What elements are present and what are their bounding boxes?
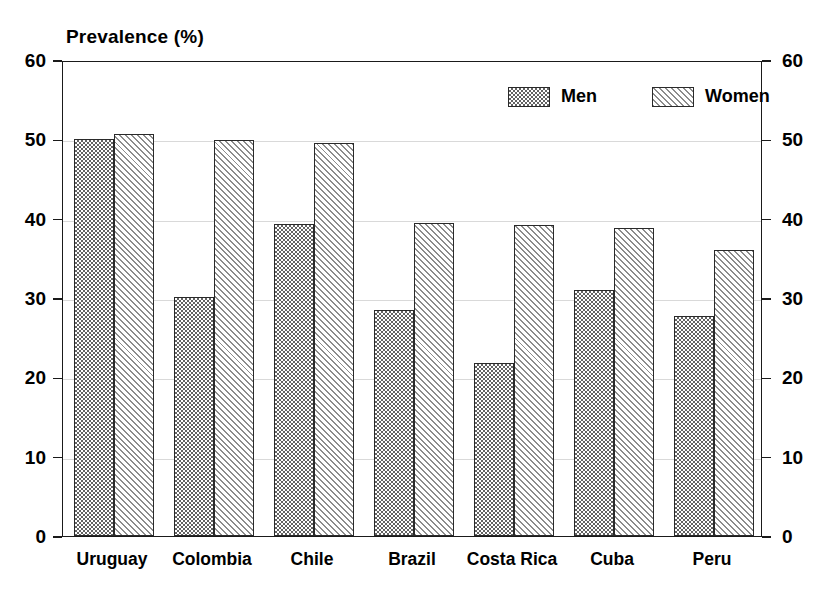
bar-men-costa-rica (474, 363, 514, 536)
bar-men-peru (674, 316, 714, 536)
y-axis-label-left-60: 60 (0, 51, 46, 70)
y-axis-label-right-30: 30 (782, 289, 803, 308)
bar-men-uruguay (74, 139, 114, 536)
y-axis-label-left-50: 50 (0, 130, 46, 149)
y-axis-label-right-40: 40 (782, 210, 803, 229)
bar-women-peru (714, 250, 754, 536)
y-axis-label-left-40: 40 (0, 210, 46, 229)
gridline-50 (63, 141, 761, 142)
x-axis-label-costa-rica: Costa Rica (462, 549, 562, 570)
x-axis-label-colombia: Colombia (162, 549, 262, 570)
y-axis-label-left-10: 10 (0, 448, 46, 467)
bar-women-brazil (414, 223, 454, 536)
bar-women-costa-rica (514, 225, 554, 536)
y-axis-label-left-30: 30 (0, 289, 46, 308)
bar-women-uruguay (114, 134, 154, 536)
y-tick-left-50 (53, 140, 62, 142)
legend-label-men: Men (561, 86, 597, 107)
legend-swatch-women (652, 87, 694, 107)
y-tick-left-60 (53, 60, 62, 62)
bar-men-colombia (174, 297, 214, 536)
legend-label-women: Women (705, 86, 770, 107)
plot-area (62, 61, 762, 537)
bar-women-colombia (214, 140, 254, 536)
y-tick-right-20 (762, 378, 771, 380)
bar-chart: Prevalence (%) 0102030405060 01020304050… (0, 0, 836, 591)
y-axis-label-right-0: 0 (782, 527, 793, 546)
y-tick-right-0 (762, 536, 771, 538)
y-tick-right-30 (762, 298, 771, 300)
bar-men-cuba (574, 290, 614, 536)
legend-item-men: Men (508, 86, 597, 107)
bar-men-chile (274, 224, 314, 536)
x-axis-label-brazil: Brazil (362, 549, 462, 570)
gridline-30 (63, 300, 761, 301)
y-axis-label-right-60: 60 (782, 51, 803, 70)
y-axis-label-right-50: 50 (782, 130, 803, 149)
y-tick-left-30 (53, 298, 62, 300)
x-axis-label-chile: Chile (262, 549, 362, 570)
y-tick-right-40 (762, 219, 771, 221)
y-tick-right-10 (762, 457, 771, 459)
x-axis-label-cuba: Cuba (562, 549, 662, 570)
y-tick-left-10 (53, 457, 62, 459)
legend-item-women: Women (652, 86, 770, 107)
bar-women-chile (314, 143, 354, 536)
y-tick-left-0 (53, 536, 62, 538)
y-tick-left-20 (53, 378, 62, 380)
bar-men-brazil (374, 310, 414, 536)
y-axis-label-right-10: 10 (782, 448, 803, 467)
y-axis-label-left-20: 20 (0, 368, 46, 387)
y-tick-left-40 (53, 219, 62, 221)
x-axis-label-peru: Peru (662, 549, 762, 570)
legend-swatch-men (508, 87, 550, 107)
chart-title: Prevalence (%) (66, 26, 204, 48)
y-axis-label-right-20: 20 (782, 368, 803, 387)
x-axis-label-uruguay: Uruguay (62, 549, 162, 570)
y-tick-right-60 (762, 60, 771, 62)
bar-women-cuba (614, 228, 654, 536)
y-axis-label-left-0: 0 (0, 527, 46, 546)
y-tick-right-50 (762, 140, 771, 142)
gridline-40 (63, 221, 761, 222)
